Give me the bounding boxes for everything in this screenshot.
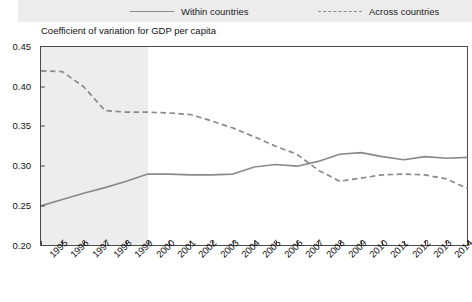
y-axis-tick-label: 0.25 — [13, 199, 32, 210]
x-axis-tick-label: 2007 — [303, 252, 311, 260]
series-line-within-countries — [41, 153, 468, 206]
x-axis-tick-label: 2004 — [239, 252, 247, 260]
y-axis-tick-label: 0.20 — [13, 239, 32, 250]
x-axis-tick-label: 2010 — [367, 252, 375, 260]
x-axis-tick-label: 1995 — [47, 252, 55, 260]
x-axis-tick-label: 2003 — [218, 252, 226, 260]
x-axis-tick-label: 2008 — [324, 252, 332, 260]
dashed-line-icon — [318, 7, 362, 16]
y-axis: 0.450.400.350.300.250.20 — [0, 46, 40, 246]
series-line-across-countries — [41, 71, 468, 189]
x-axis-tick-label: 2011 — [388, 252, 396, 260]
chart-title: Coefficient of variation for GDP per cap… — [41, 25, 216, 36]
legend-item-across-countries: Across countries — [318, 0, 439, 22]
x-axis-tick-label: 2012 — [410, 252, 418, 260]
x-axis-tick-label: 2000 — [154, 252, 162, 260]
chart-page: Within countries Across countries Coeffi… — [0, 0, 472, 302]
y-axis-tick-mark — [41, 166, 45, 167]
y-axis-tick-mark — [41, 86, 45, 87]
x-axis-tick-label: 2013 — [431, 252, 439, 260]
x-axis-tick-label: 2009 — [346, 252, 354, 260]
x-axis-tick-label: 2002 — [196, 252, 204, 260]
legend-label-across-countries: Across countries — [369, 6, 439, 17]
x-axis-tick-label: 2001 — [175, 252, 183, 260]
x-axis: 1995199619971998199920002001200220032004… — [40, 246, 468, 302]
y-axis-tick-mark — [41, 126, 45, 127]
x-axis-tick-label: 1998 — [111, 252, 119, 260]
x-axis-tick-mark — [41, 241, 42, 245]
x-axis-tick-label: 1999 — [132, 252, 140, 260]
legend-label-within-countries: Within countries — [181, 6, 249, 17]
x-axis-tick-label: 2005 — [260, 252, 268, 260]
y-axis-tick-mark — [41, 205, 45, 206]
plot-area — [40, 46, 468, 246]
y-axis-tick-label: 0.40 — [13, 80, 32, 91]
series-canvas — [41, 47, 469, 247]
x-axis-tick-label: 2014 — [452, 252, 460, 260]
x-axis-tick-label: 2006 — [282, 252, 290, 260]
solid-line-icon — [130, 7, 174, 16]
y-axis-tick-label: 0.45 — [13, 41, 32, 52]
y-axis-tick-label: 0.35 — [13, 120, 32, 131]
y-axis-tick-label: 0.30 — [13, 160, 32, 171]
x-axis-tick-label: 1997 — [90, 252, 98, 260]
chart-legend: Within countries Across countries — [18, 0, 472, 22]
legend-item-within-countries: Within countries — [130, 0, 249, 22]
x-axis-tick-label: 1996 — [68, 252, 76, 260]
